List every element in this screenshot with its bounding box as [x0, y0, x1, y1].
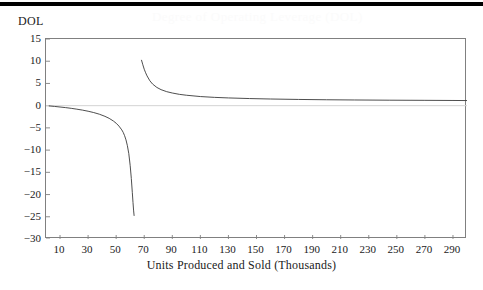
x-tick-170: 170: [275, 243, 292, 255]
y-tick--15: −15: [24, 165, 41, 177]
y-tick-5: 5: [36, 76, 42, 88]
x-tick-210: 210: [331, 243, 348, 255]
top-horizontal-rule: [0, 2, 483, 6]
plot-area: [45, 38, 466, 238]
series-line-below-breakeven: [49, 106, 134, 216]
x-tick-90: 90: [166, 243, 177, 255]
y-tick--10: −10: [24, 143, 41, 155]
series-line-above-breakeven: [141, 60, 467, 101]
x-tick-250: 250: [388, 243, 405, 255]
y-tick-15: 15: [30, 32, 41, 44]
ghost-title-text: Degree of Operating Leverage (DOL): [152, 9, 402, 27]
x-tick-150: 150: [247, 243, 264, 255]
y-tick--20: −20: [24, 188, 41, 200]
x-axis-tick-labels: 1030507090110130150170190210230250270290: [45, 243, 466, 259]
y-axis-title: DOL: [18, 14, 44, 28]
figure: Degree of Operating Leverage (DOL) DOL 1…: [0, 0, 483, 290]
x-tick-70: 70: [138, 243, 149, 255]
y-tick--30: −30: [24, 232, 41, 244]
x-tick-230: 230: [360, 243, 377, 255]
x-tick-130: 130: [219, 243, 236, 255]
x-tick-290: 290: [444, 243, 461, 255]
x-tick-50: 50: [110, 243, 121, 255]
x-tick-10: 10: [54, 243, 65, 255]
y-tick-0: 0: [36, 99, 42, 111]
x-axis-title: Units Produced and Sold (Thousands): [0, 258, 483, 273]
chart-canvas: [46, 39, 467, 239]
y-tick-10: 10: [30, 54, 41, 66]
axis-tick-marks: [46, 39, 453, 239]
y-axis-tick-labels: 151050−5−10−15−20−25−30: [0, 38, 41, 238]
x-tick-270: 270: [416, 243, 433, 255]
x-tick-30: 30: [82, 243, 93, 255]
x-tick-190: 190: [303, 243, 320, 255]
y-tick--5: −5: [29, 121, 41, 133]
x-tick-110: 110: [191, 243, 207, 255]
y-tick--25: −25: [24, 210, 41, 222]
